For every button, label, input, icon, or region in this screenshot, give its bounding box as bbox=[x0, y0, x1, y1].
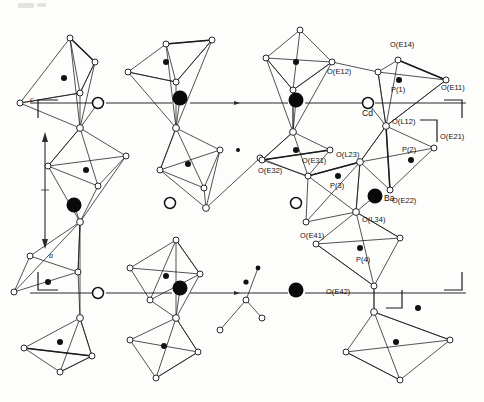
tetrahedron-cluster-bottom-right bbox=[346, 286, 450, 380]
crystal-structure-figure: c a O(E14) O(E12) O(E11) P(1) Cd O(L12) … bbox=[0, 0, 484, 402]
label-p4: P(4) bbox=[356, 255, 370, 264]
bracket-right-bottom bbox=[444, 272, 462, 290]
label-ol34: O(L34) bbox=[362, 215, 386, 224]
structure-canvas: c a O(E14) O(E12) O(E11) P(1) Cd O(L12) … bbox=[0, 0, 484, 402]
label-ol23: O(L23) bbox=[336, 150, 360, 159]
barium-atoms bbox=[67, 91, 383, 298]
label-p1: P(1) bbox=[391, 85, 405, 94]
label-oe14: O(E14) bbox=[390, 40, 414, 49]
label-p2: P(2) bbox=[402, 145, 416, 154]
label-ol12: O(L12) bbox=[392, 117, 416, 126]
label-ba: Ba bbox=[384, 193, 395, 203]
axis-label-c: c bbox=[30, 95, 34, 104]
tetrahedron-cluster-mid-left bbox=[48, 128, 126, 222]
label-oe41: O(E41) bbox=[300, 231, 324, 240]
tetrahedron-cluster-low-left bbox=[14, 222, 80, 318]
label-oe32: O(E32) bbox=[258, 166, 282, 175]
bracket-mid-right bbox=[420, 120, 437, 142]
label-oe22: O(E22) bbox=[392, 196, 416, 205]
label-oe31: O(E31) bbox=[302, 156, 326, 165]
tetrahedron-cluster-low-centre bbox=[130, 240, 200, 318]
label-oe12: O(E12) bbox=[327, 67, 351, 76]
tetrahedron-cluster-p2 bbox=[360, 126, 434, 190]
label-p3: P(3) bbox=[330, 181, 344, 190]
tetrahedron-cluster-top-right bbox=[266, 30, 332, 132]
label-oe11: O(E11) bbox=[441, 83, 465, 92]
page-smudge bbox=[18, 3, 46, 8]
tetrahedron-cluster-bottom-left bbox=[24, 318, 92, 372]
label-oe21: O(E21) bbox=[440, 132, 464, 141]
tetrahedron-cluster-top-left bbox=[20, 38, 95, 128]
tetrahedron-cluster-top-mid bbox=[128, 40, 212, 128]
axis-label-a: a bbox=[49, 251, 53, 260]
tetrahedron-cluster-p3 bbox=[306, 162, 360, 222]
label-cd: Cd bbox=[362, 108, 373, 118]
label-oe42: O(E42) bbox=[326, 287, 350, 296]
axis-a-arrow bbox=[41, 132, 49, 249]
